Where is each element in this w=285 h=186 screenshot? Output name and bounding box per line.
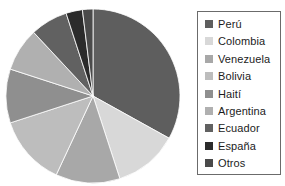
legend-item-label: España — [218, 138, 256, 154]
legend-swatch-icon — [205, 107, 213, 115]
legend-swatch-icon — [205, 142, 213, 150]
legend-item-label: Bolivia — [218, 68, 251, 84]
legend-item[interactable]: España — [202, 138, 277, 154]
pie-plot-area — [0, 0, 192, 186]
legend-item[interactable]: Ecuador — [202, 120, 277, 136]
legend-item-list: PerúColombiaVenezuelaBoliviaHaitíArgenti… — [202, 16, 277, 171]
legend-swatch-icon — [205, 124, 213, 132]
legend-item-label: Venezuela — [218, 51, 270, 67]
legend-item[interactable]: Argentina — [202, 103, 277, 119]
legend-item-label: Colombia — [218, 33, 265, 49]
legend-swatch-icon — [205, 20, 213, 28]
legend-item-label: Ecuador — [218, 120, 260, 136]
legend-item-label: Haití — [218, 86, 241, 102]
legend-swatch-icon — [205, 72, 213, 80]
legend-item-label: Otros — [218, 155, 245, 171]
pie-chart-figure: PerúColombiaVenezuelaBoliviaHaitíArgenti… — [0, 0, 285, 186]
pie-svg — [0, 0, 192, 186]
legend-item[interactable]: Otros — [202, 155, 277, 171]
legend-item[interactable]: Haití — [202, 86, 277, 102]
legend-swatch-icon — [205, 159, 213, 167]
legend-item[interactable]: Venezuela — [202, 51, 277, 67]
legend-swatch-icon — [205, 55, 213, 63]
legend-swatch-icon — [205, 37, 213, 45]
legend-item[interactable]: Bolivia — [202, 68, 277, 84]
legend-item-label: Argentina — [218, 103, 266, 119]
legend-item-label: Perú — [218, 16, 242, 32]
pie-slice-group — [6, 9, 180, 183]
chart-legend: PerúColombiaVenezuelaBoliviaHaitíArgenti… — [197, 11, 281, 175]
legend-swatch-icon — [205, 90, 213, 98]
legend-item[interactable]: Perú — [202, 16, 277, 32]
legend-item[interactable]: Colombia — [202, 33, 277, 49]
